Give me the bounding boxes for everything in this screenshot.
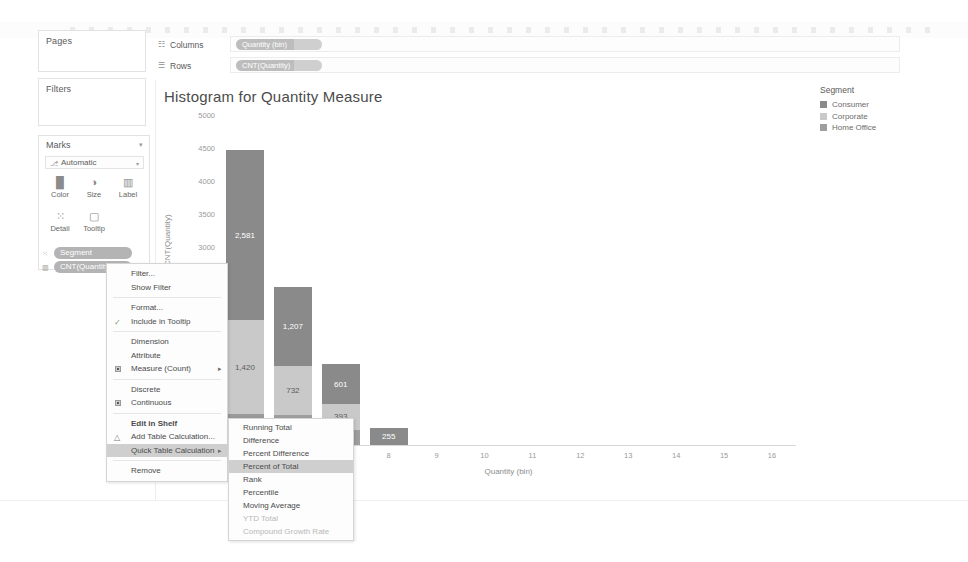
toolbar-button[interactable] (260, 27, 265, 33)
toolbar-button[interactable] (659, 27, 664, 33)
toolbar-button[interactable] (849, 27, 854, 33)
radio-icon (115, 366, 121, 372)
marks-button-color[interactable]: █ Color (43, 174, 77, 199)
toolbar-button[interactable] (298, 27, 303, 33)
quick-table-calculation-submenu[interactable]: Running TotalDifferencePercent Differenc… (228, 418, 354, 541)
submenu-item[interactable]: Percent of Total (229, 460, 353, 473)
legend-item[interactable]: Consumer (820, 100, 960, 109)
submenu-item[interactable]: Difference (229, 434, 353, 447)
menu-item[interactable]: Attribute (107, 349, 227, 363)
toolbar-button[interactable] (773, 27, 778, 33)
toolbar-button[interactable] (906, 27, 911, 33)
rows-pill-handle[interactable] (294, 60, 322, 71)
marks-button-tooltip[interactable]: ▢ Tooltip (77, 208, 111, 233)
bar-segment[interactable]: 255 (370, 428, 408, 445)
toolbar-button[interactable] (374, 27, 379, 33)
toolbar-button[interactable] (564, 27, 569, 33)
bar-column[interactable]: 2,5811,420471 (226, 150, 264, 445)
menu-item[interactable]: Discrete (107, 383, 227, 397)
menu-item[interactable]: Continuous (107, 396, 227, 410)
toolbar-button[interactable] (450, 27, 455, 33)
bar-column[interactable]: 255 (370, 428, 408, 445)
field-context-menu[interactable]: Filter...Show FilterFormat...✓Include in… (106, 263, 228, 482)
bar-segment[interactable]: 2,581 (226, 150, 264, 320)
marks-button-label[interactable]: ▥ Label (111, 174, 145, 199)
toolbar-button[interactable] (602, 27, 607, 33)
menu-item[interactable]: Edit in Shelf (107, 417, 227, 431)
plot-area[interactable]: CNT(Quantity) 50004500400035003000 2,581… (221, 116, 796, 446)
filters-card-title: Filters (46, 84, 71, 94)
legend-item[interactable]: Home Office (820, 123, 960, 132)
toolbar-button[interactable] (222, 27, 227, 33)
submenu-item[interactable]: Percentile (229, 486, 353, 499)
toolbar-button[interactable] (526, 27, 531, 33)
toolbar-button[interactable] (697, 27, 702, 33)
toolbar-button[interactable] (488, 27, 493, 33)
bar-segment[interactable]: 1,207 (274, 287, 312, 367)
menu-item-label: Format... (131, 303, 163, 312)
toolbar-button[interactable] (754, 27, 759, 33)
bar-segment[interactable]: 601 (322, 364, 360, 404)
submenu-item[interactable]: Moving Average (229, 499, 353, 512)
marks-button-label-label: Label (119, 190, 137, 199)
menu-item[interactable]: Show Filter (107, 281, 227, 295)
toolbar-button[interactable] (146, 27, 151, 33)
chevron-down-icon[interactable]: ▾ (139, 141, 143, 149)
filters-card[interactable]: Filters (38, 78, 146, 126)
toolbar-button[interactable] (507, 27, 512, 33)
submenu-item[interactable]: Running Total (229, 421, 353, 434)
toolbar-button[interactable] (868, 27, 873, 33)
legend-item-label: Consumer (832, 100, 869, 109)
marks-button-size[interactable]: ◑ Size (77, 174, 111, 199)
pages-card[interactable]: Pages (38, 30, 146, 72)
toolbar-button[interactable] (317, 27, 322, 33)
toolbar-button[interactable] (621, 27, 626, 33)
submenu-item[interactable]: Percent Difference (229, 447, 353, 460)
toolbar-button[interactable] (279, 27, 284, 33)
submenu-item[interactable]: Rank (229, 473, 353, 486)
bar-segment[interactable]: 732 (274, 366, 312, 414)
toolbar-button[interactable] (678, 27, 683, 33)
toolbar-button[interactable] (431, 27, 436, 33)
rows-shelf-dropzone[interactable] (230, 57, 900, 73)
toolbar-button[interactable] (716, 27, 721, 33)
menu-item[interactable]: Filter... (107, 267, 227, 281)
columns-shelf-dropzone[interactable] (230, 36, 900, 52)
menu-item[interactable]: Dimension (107, 335, 227, 349)
legend-swatch-icon (820, 101, 827, 108)
toolbar-button[interactable] (811, 27, 816, 33)
columns-pill-label: Quantity (bin) (242, 40, 287, 49)
toolbar-button[interactable] (393, 27, 398, 33)
legend-swatch-icon (820, 124, 827, 131)
toolbar-button[interactable] (640, 27, 645, 33)
toolbar-button[interactable] (469, 27, 474, 33)
toolbar-button[interactable] (203, 27, 208, 33)
submenu-item-label: Percent Difference (243, 449, 309, 458)
bar-segment[interactable]: 1,420 (226, 320, 264, 414)
toolbar-button[interactable] (336, 27, 341, 33)
toolbar-button[interactable] (412, 27, 417, 33)
toolbar-button[interactable] (355, 27, 360, 33)
toolbar-button[interactable] (241, 27, 246, 33)
toolbar-button[interactable] (165, 27, 170, 33)
marks-pill-segment[interactable]: Segment (54, 247, 132, 259)
columns-pill-handle[interactable] (294, 39, 322, 50)
toolbar-button[interactable] (887, 27, 892, 33)
legend-item[interactable]: Corporate (820, 112, 960, 121)
toolbar-button[interactable] (545, 27, 550, 33)
toolbar-button[interactable] (925, 27, 930, 33)
toolbar-button[interactable] (830, 27, 835, 33)
toolbar-button[interactable] (792, 27, 797, 33)
toolbar-button[interactable] (583, 27, 588, 33)
menu-item[interactable]: Format... (107, 301, 227, 315)
toolbar-button[interactable] (735, 27, 740, 33)
menu-item[interactable]: Measure (Count)▸ (107, 362, 227, 376)
menu-item[interactable]: ✓Include in Tooltip (107, 315, 227, 329)
toolbar-button[interactable] (184, 27, 189, 33)
menu-item[interactable]: Remove (107, 464, 227, 478)
marks-button-detail[interactable]: ⁙ Detail (43, 208, 77, 233)
mark-type-dropdown[interactable]: ⎇ Automatic ▾ (45, 156, 144, 169)
menu-item[interactable]: △Add Table Calculation... (107, 430, 227, 444)
color-legend[interactable]: Segment ConsumerCorporateHome Office (820, 85, 960, 135)
menu-item[interactable]: Quick Table Calculation▸ (107, 444, 227, 458)
